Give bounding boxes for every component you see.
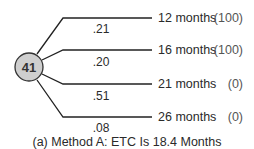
branch-duration: 21 months — [158, 77, 216, 91]
branch-duration: 26 months — [158, 110, 216, 124]
branch-score: (100) — [214, 11, 243, 25]
branch-score: (100) — [214, 43, 243, 57]
node-value: 41 — [22, 60, 36, 75]
branch-probability: .08 — [93, 121, 110, 135]
chance-node: 41 — [15, 53, 43, 81]
branch-score: (0) — [228, 77, 243, 91]
figure-caption: (a) Method A: ETC Is 18.4 Months — [33, 135, 222, 149]
branch-probability: .20 — [93, 55, 110, 69]
branch-probability: .21 — [93, 22, 110, 36]
branch-score: (0) — [228, 110, 243, 124]
branch-duration: 12 months — [158, 11, 216, 25]
branch-probability: .51 — [93, 89, 110, 103]
branch-duration: 16 months — [158, 43, 216, 57]
branch-16-months: .20 16 months (100) — [42, 43, 243, 69]
decision-tree-diagram: .21 12 months (100) .20 16 months (100) … — [0, 0, 254, 149]
branch-21-months: .51 21 months (0) — [42, 74, 243, 103]
